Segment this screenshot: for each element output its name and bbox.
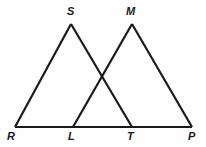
- vertex-label-L: L: [68, 131, 75, 142]
- geometry-canvas: [0, 0, 206, 147]
- vertex-label-M: M: [126, 6, 135, 17]
- triangle-strokes: [15, 24, 192, 127]
- segment-side-RS: [15, 24, 71, 127]
- vertex-label-S: S: [67, 6, 74, 17]
- segment-side-MP: [132, 24, 192, 127]
- vertex-label-T: T: [127, 131, 134, 142]
- vertex-label-P: P: [188, 131, 195, 142]
- geometry-diagram: S M R L T P: [0, 0, 206, 147]
- vertex-label-R: R: [7, 131, 15, 142]
